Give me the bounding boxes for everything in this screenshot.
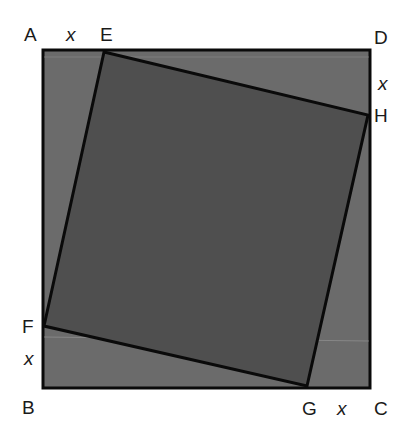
vertex-label-b: B bbox=[22, 398, 35, 417]
vertex-label-f: F bbox=[22, 317, 34, 336]
side-label-x-bottom: x bbox=[337, 399, 347, 418]
side-label-x-top: x bbox=[66, 25, 76, 44]
side-label-x-left: x bbox=[24, 349, 34, 368]
inner-square-EHGF bbox=[44, 52, 368, 386]
side-label-x-right: x bbox=[378, 74, 388, 93]
pythagorean-square-diagram bbox=[0, 0, 411, 439]
vertex-label-g: G bbox=[302, 399, 317, 418]
vertex-label-a: A bbox=[24, 25, 37, 44]
vertex-label-d: D bbox=[374, 28, 388, 47]
vertex-label-h: H bbox=[374, 106, 388, 125]
vertex-label-c: C bbox=[374, 399, 388, 418]
vertex-label-e: E bbox=[100, 25, 113, 44]
